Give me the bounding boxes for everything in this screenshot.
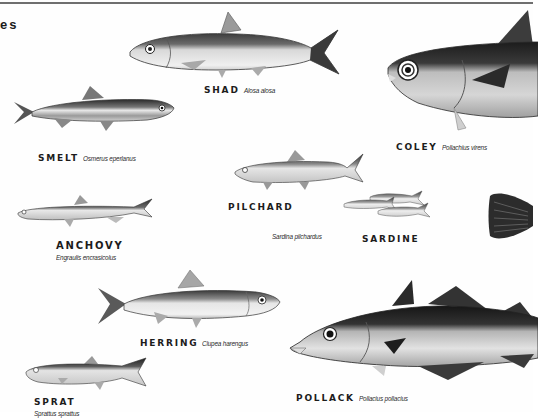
smelt-illustration (12, 84, 177, 136)
anchovy-common-name: ANCHOVY (56, 240, 124, 251)
coley-common-name: COLEY (396, 142, 438, 152)
pilchard-label: PILCHARD (228, 197, 294, 213)
cropped-tail-illustration (488, 188, 533, 244)
smelt-common-name: SMELT (38, 153, 79, 163)
pollack-latin-name: Pollacius pollacius (359, 395, 408, 403)
pollack-illustration (288, 276, 538, 382)
coley-label: COLEYPollachius virens (396, 137, 495, 153)
sprat-common-name: SPRAT (34, 397, 75, 407)
herring-illustration (96, 268, 282, 330)
page-heading-fragment: es (0, 17, 18, 32)
pollack-label: POLLACKPollacius pollacius (296, 388, 416, 404)
pilchard-illustration (233, 148, 365, 194)
coley-latin-name: Pollachius virens (442, 144, 487, 152)
smelt-latin-name: Osmerus eperlanus (83, 155, 136, 163)
shad-illustration (126, 8, 341, 80)
herring-latin-name: Clupea harengus (202, 340, 248, 348)
herring-label: HERRINGClupea harengus (140, 333, 257, 349)
pilchard-common-name: PILCHARD (228, 202, 294, 212)
herring-common-name: HERRING (140, 338, 198, 348)
shad-label: SHADAlosa alosa (204, 80, 280, 96)
top-rule-divider (0, 2, 533, 4)
sprat-latin-name: Sprattus sprattus (34, 410, 79, 418)
sardine-illustration (342, 191, 430, 221)
sprat-illustration (24, 356, 148, 392)
sardine-common-name: SARDINE (362, 234, 419, 244)
pilchard-latin-name: Sardina pilchardus (272, 233, 322, 241)
pilchard-latin-label: Sardina pilchardus (272, 226, 331, 242)
shad-latin-name: Alosa alosa (244, 87, 275, 95)
anchovy-label: ANCHOVY Engraulis encrasicolus (56, 236, 127, 262)
coley-illustration (388, 8, 538, 133)
shad-common-name: SHAD (204, 85, 240, 95)
sprat-label: SPRAT Sprattus sprattus (34, 392, 87, 418)
sardine-label: SARDINE (362, 229, 419, 245)
pollack-common-name: POLLACK (296, 393, 355, 403)
anchovy-latin-name: Engraulis encrasicolus (56, 254, 116, 262)
smelt-label: SMELTOsmerus eperlanus (38, 148, 145, 164)
anchovy-illustration (16, 193, 154, 229)
